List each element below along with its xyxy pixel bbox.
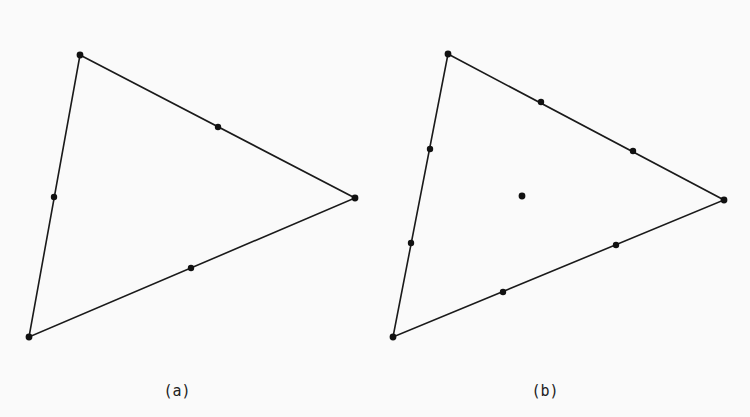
vertex-node-bottom-left: [390, 334, 397, 341]
caption-b: (b): [531, 382, 558, 400]
panel-a-quadratic-triangle: (a): [26, 52, 359, 400]
midside-node-top-edge: [215, 124, 221, 130]
edge-node-left-1: [427, 146, 433, 152]
vertex-node-top: [445, 51, 452, 58]
vertex-node-right: [721, 197, 728, 204]
midside-node-bottom-edge: [188, 265, 194, 271]
panel-b-cubic-triangle: (b): [390, 51, 728, 400]
edge-node-bottom-1: [613, 242, 619, 248]
caption-a: (a): [163, 382, 190, 400]
edge-node-left-2: [408, 240, 414, 246]
edge-node-top-1: [538, 99, 544, 105]
figure-canvas: (a) (b): [0, 0, 750, 417]
vertex-node-right: [352, 195, 359, 202]
triangle-b-outline: [393, 54, 724, 337]
interior-centroid-node: [519, 193, 526, 200]
vertex-node-top: [77, 52, 84, 59]
triangle-a-outline: [29, 55, 355, 337]
edge-node-top-2: [630, 148, 636, 154]
midside-node-left-edge: [51, 194, 57, 200]
edge-node-bottom-2: [500, 289, 506, 295]
vertex-node-bottom-left: [26, 334, 33, 341]
